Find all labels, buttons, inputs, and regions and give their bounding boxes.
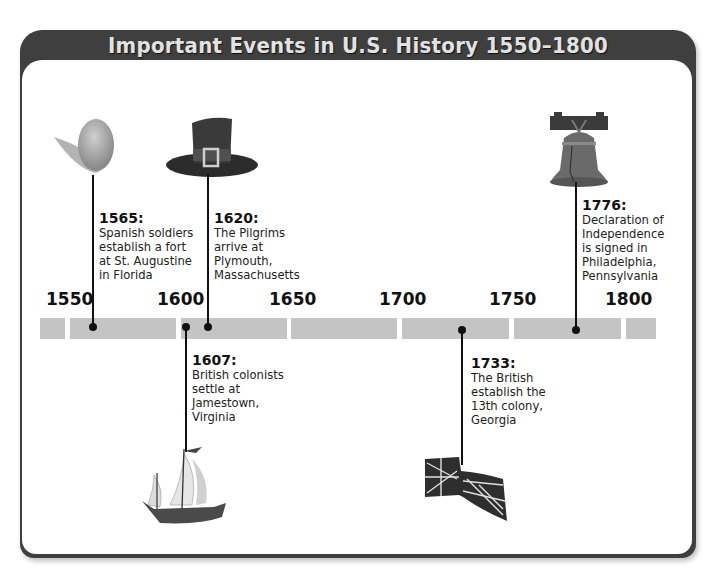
- event-1607: 1607: British colonists settle at Jamest…: [192, 352, 284, 424]
- timeline-segment: [181, 318, 287, 339]
- event-year: 1620:: [214, 210, 300, 226]
- timeline-segment: [402, 318, 509, 339]
- tick-label-1650: 1650: [269, 289, 316, 309]
- conquistador-helmet-icon: [52, 115, 128, 181]
- sailing-ship-icon: [140, 445, 232, 531]
- event-marker-1776: [572, 326, 580, 334]
- tick-label-1700: 1700: [379, 289, 426, 309]
- event-1776: 1776: Declaration of Independence is sig…: [582, 197, 664, 283]
- tick-label-1600: 1600: [157, 289, 204, 309]
- timeline-segment: [70, 318, 176, 339]
- tick-label-1750: 1750: [489, 289, 536, 309]
- event-year: 1776:: [582, 197, 664, 213]
- event-connector-1776: [575, 182, 577, 328]
- liberty-bell-icon: [546, 112, 612, 194]
- event-description: Spanish soldiers establish a fort at St.…: [99, 226, 193, 282]
- event-year: 1733:: [471, 355, 546, 371]
- event-1565: 1565: Spanish soldiers establish a fort …: [99, 210, 193, 282]
- pilgrim-hat-icon: [164, 113, 260, 185]
- tick-label-1550: 1550: [46, 289, 93, 309]
- event-connector-1733: [461, 330, 463, 465]
- tick-label-1800: 1800: [605, 289, 652, 309]
- event-description: British colonists settle at Jamestown, V…: [192, 368, 284, 424]
- event-description: The Pilgrims arrive at Plymouth, Massach…: [214, 226, 300, 282]
- page-title: Important Events in U.S. History 1550–18…: [54, 30, 662, 62]
- event-marker-1620: [204, 323, 212, 331]
- event-connector-1565: [92, 175, 94, 326]
- timeline-segment: [291, 318, 397, 339]
- event-1620: 1620: The Pilgrims arrive at Plymouth, M…: [214, 210, 300, 282]
- event-connector-1607: [185, 327, 187, 452]
- event-description: Declaration of Independence is signed in…: [582, 213, 664, 283]
- event-description: The British establish the 13th colony, G…: [471, 371, 546, 427]
- event-1733: 1733: The British establish the 13th col…: [471, 355, 546, 427]
- event-connector-1620: [207, 174, 209, 326]
- timeline-segment: [514, 318, 621, 339]
- event-marker-1565: [89, 323, 97, 331]
- timeline-segment: [40, 318, 65, 339]
- british-flag-icon: [423, 455, 513, 531]
- event-year: 1607:: [192, 352, 284, 368]
- timeline-segment: [626, 318, 656, 339]
- event-year: 1565:: [99, 210, 193, 226]
